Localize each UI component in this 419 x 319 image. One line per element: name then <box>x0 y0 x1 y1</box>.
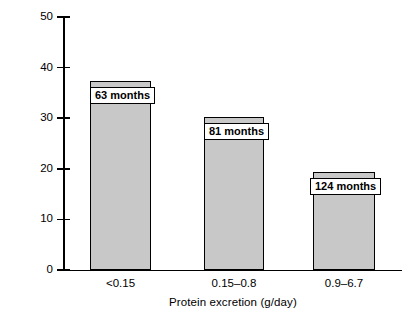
bar-annotation-1: 63 months <box>90 87 155 104</box>
x-axis-title: Protein excretion (g/day) <box>63 296 403 308</box>
bar-annotation-3: 124 months <box>310 178 381 195</box>
y-tick-mark-0 <box>57 269 70 271</box>
y-tick-mark-20 <box>57 168 70 170</box>
y-tick-label-30: 30 <box>22 112 53 124</box>
x-category-label-3: 0.9–6.7 <box>303 277 385 289</box>
y-tick-label-40: 40 <box>22 62 53 74</box>
y-tick-mark-30 <box>57 117 70 119</box>
y-tick-label-50: 50 <box>22 11 53 23</box>
y-tick-mark-10 <box>57 219 70 221</box>
x-category-label-1: <0.15 <box>80 277 161 289</box>
y-tick-label-20: 20 <box>22 163 53 175</box>
x-category-label-2: 0.15–0.8 <box>194 277 274 289</box>
y-axis-line <box>63 17 65 271</box>
bar-2 <box>204 117 264 270</box>
y-tick-mark-50 <box>57 16 70 18</box>
bar-annotation-2: 81 months <box>204 123 269 140</box>
bar-1 <box>90 81 151 270</box>
bar-chart-figure: Renal mass remaining (%) 50 40 30 20 10 … <box>0 0 419 319</box>
y-tick-label-10: 10 <box>22 213 53 225</box>
y-tick-mark-40 <box>57 67 70 69</box>
y-tick-label-0: 0 <box>22 264 53 276</box>
